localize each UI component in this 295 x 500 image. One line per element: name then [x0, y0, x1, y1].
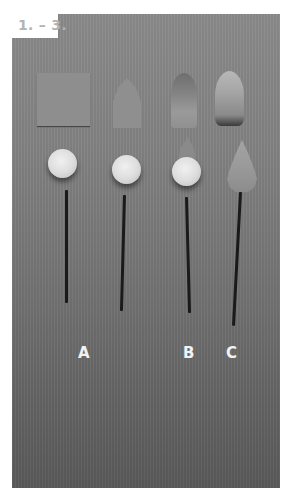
pointed-petal [113, 78, 141, 128]
wire-stem-b [120, 195, 126, 311]
foam-ball-a [48, 149, 77, 178]
curled-petal [171, 73, 197, 128]
craft-photo: A B C [12, 14, 280, 488]
wire-stem-a [65, 190, 68, 303]
wrapped-bud [227, 140, 257, 192]
label-c: C [226, 344, 237, 362]
petal-cone [215, 71, 244, 126]
label-b: B [183, 344, 194, 362]
paper-square [37, 73, 90, 126]
wire-stem-d [232, 192, 242, 326]
step-label-box: 1. – 3. [12, 14, 58, 38]
wire-stem-c [185, 197, 191, 313]
foam-ball-c [172, 157, 201, 186]
label-a: A [78, 344, 90, 362]
foam-ball-b [112, 155, 141, 184]
step-label: 1. – 3. [18, 17, 67, 33]
